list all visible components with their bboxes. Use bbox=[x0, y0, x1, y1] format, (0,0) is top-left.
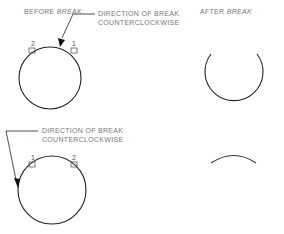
arc-after-bottom bbox=[211, 156, 256, 164]
point-label-top-left: 2 bbox=[31, 40, 35, 47]
heading-after-em: BREAK bbox=[227, 8, 252, 15]
point-label-bottom-left: 1 bbox=[31, 154, 35, 161]
callout-bottom-line1: DIRECTION OF BREAK bbox=[42, 127, 123, 135]
circle-before-bottom bbox=[18, 156, 86, 224]
callout-top-line2: COUNTERCLOCKWISE bbox=[98, 19, 179, 27]
point-label-bottom-right: 2 bbox=[72, 154, 76, 161]
heading-before-break: BEFORE BREAK bbox=[24, 8, 82, 16]
callout-top-line1: DIRECTION OF BREAK bbox=[98, 10, 179, 18]
heading-after-break: AFTER BREAK bbox=[200, 8, 252, 16]
heading-before-text: BEFORE bbox=[24, 8, 57, 15]
arrowhead-bottom bbox=[14, 178, 20, 188]
point-label-top-right: 1 bbox=[72, 40, 76, 47]
arrowhead-top bbox=[58, 38, 65, 47]
arc-after-top bbox=[205, 54, 263, 101]
heading-after-text: AFTER bbox=[200, 8, 227, 15]
heading-before-em: BREAK bbox=[57, 8, 82, 15]
leader-line-top bbox=[62, 14, 95, 38]
break-diagram bbox=[0, 0, 284, 234]
pick-point-1-top bbox=[71, 48, 77, 53]
callout-bottom-line2: COUNTERCLOCKWISE bbox=[42, 136, 123, 144]
circle-before-top bbox=[19, 47, 81, 109]
